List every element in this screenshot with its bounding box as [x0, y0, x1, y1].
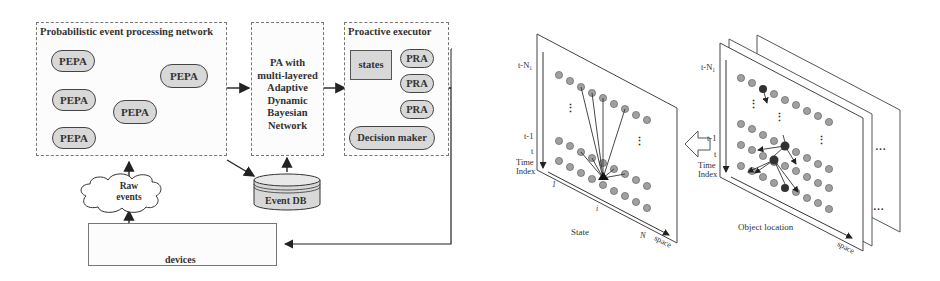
right-ellipsis: ⋮ — [774, 111, 785, 124]
left-ellipsis: ⋮ — [565, 102, 576, 115]
right-ellipsis: ⋮ — [816, 134, 827, 147]
more-planes-ellipsis: … — [875, 140, 886, 152]
right-ellipsis: ⋮ — [748, 98, 759, 111]
left-x-tick-N: N — [640, 230, 646, 240]
left-x-label: State — [571, 227, 589, 237]
right-time-label-t1: t-1 — [707, 133, 716, 143]
more-planes-ellipsis: … — [873, 200, 884, 212]
right-x-label: Object location — [738, 222, 793, 232]
right-time-label-t: t — [714, 149, 716, 159]
left-time-label-t: t — [531, 146, 533, 156]
right-time-label-tn: t-N₁ — [701, 62, 715, 72]
left-x-tick-1: 1 — [552, 180, 556, 189]
left-ellipsis: ⋮ — [634, 135, 645, 148]
left-time-label-tn: t-N₁ — [518, 60, 532, 70]
right-time-axis-label: Time Index — [698, 161, 717, 179]
left-time-label-t1: t-1 — [524, 131, 533, 141]
left-time-axis-label: Time Index — [516, 158, 535, 176]
left-x-tick-i: i — [596, 204, 598, 213]
time-space-planes — [0, 0, 940, 281]
